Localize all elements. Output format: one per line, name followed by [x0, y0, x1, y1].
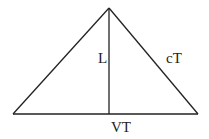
right-side-label: cT: [166, 50, 182, 66]
left-side-line: [13, 8, 109, 114]
altitude-label: L: [98, 50, 107, 66]
triangle-diagram: L cT VT: [0, 0, 209, 139]
base-label: VT: [111, 119, 131, 135]
right-side-line: [109, 8, 198, 114]
